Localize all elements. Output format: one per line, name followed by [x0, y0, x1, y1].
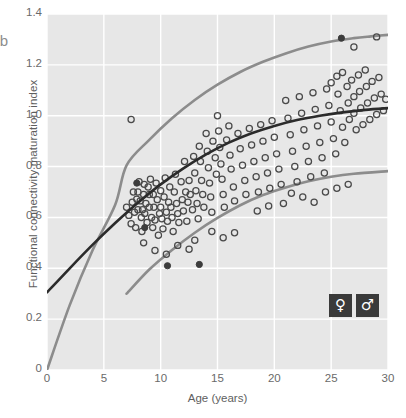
data-point — [173, 200, 179, 206]
data-point — [363, 83, 369, 89]
data-point — [141, 240, 147, 246]
data-point — [206, 180, 212, 186]
data-point — [243, 191, 249, 197]
data-point — [346, 116, 352, 122]
x-tick-label: 30 — [368, 372, 406, 384]
data-point — [254, 208, 260, 214]
data-point — [339, 69, 345, 75]
data-point — [230, 184, 236, 190]
data-point — [262, 155, 268, 161]
y-axis-label: Functional connectivity maturation index — [27, 34, 39, 334]
data-point — [143, 200, 149, 206]
data-point — [195, 216, 201, 222]
data-point — [193, 188, 199, 194]
data-point-highlighted — [164, 263, 170, 269]
x-tick-label: 20 — [254, 372, 294, 384]
data-point — [178, 179, 184, 185]
data-point — [356, 88, 362, 94]
data-point — [170, 228, 176, 234]
data-point — [209, 209, 215, 215]
legend-item-female[interactable]: ♀ — [329, 294, 352, 317]
data-point — [147, 176, 153, 182]
data-point-highlighted — [134, 180, 140, 186]
data-point — [231, 230, 237, 236]
data-point — [296, 94, 302, 100]
data-point — [278, 181, 284, 187]
data-point — [260, 138, 266, 144]
data-point — [353, 127, 359, 133]
data-point — [221, 204, 227, 210]
data-point — [237, 146, 243, 152]
data-point — [128, 116, 134, 122]
data-point — [176, 219, 182, 225]
data-point — [351, 44, 357, 50]
data-point — [335, 91, 341, 97]
data-point — [342, 139, 348, 145]
data-point — [185, 199, 191, 205]
data-point — [200, 191, 206, 197]
data-point — [150, 225, 156, 231]
data-point — [312, 106, 318, 112]
data-point — [364, 100, 370, 106]
data-point — [220, 235, 226, 241]
data-point — [191, 153, 197, 159]
data-point — [163, 209, 169, 215]
y-tick-label: 1.4 — [2, 6, 42, 18]
data-point — [264, 170, 270, 176]
data-point — [371, 95, 377, 101]
x-axis-label: Age (years) — [47, 392, 388, 404]
data-point — [239, 162, 245, 168]
data-point — [154, 197, 160, 203]
data-point — [378, 91, 384, 97]
data-point — [242, 177, 248, 183]
data-point — [333, 151, 339, 157]
data-point — [205, 165, 211, 171]
male-symbol-icon: ♂ — [361, 298, 374, 313]
data-point — [344, 83, 350, 89]
data-point — [258, 122, 264, 128]
data-point — [351, 94, 357, 100]
data-point — [345, 181, 351, 187]
data-point — [310, 90, 316, 96]
data-point — [369, 78, 375, 84]
data-point — [210, 138, 216, 144]
data-point — [376, 74, 382, 80]
data-point — [184, 218, 190, 224]
data-point — [249, 142, 255, 148]
x-tick-label: 0 — [27, 372, 67, 384]
data-point — [300, 194, 306, 200]
data-point — [192, 237, 198, 243]
data-point — [266, 203, 272, 209]
data-point — [324, 86, 330, 92]
data-point — [321, 170, 327, 176]
data-point — [251, 158, 257, 164]
data-point — [334, 73, 340, 79]
data-point — [167, 184, 173, 190]
data-point — [216, 128, 222, 134]
data-point — [186, 246, 192, 252]
data-point — [220, 191, 226, 197]
scatter-points — [123, 34, 388, 258]
data-point-highlighted — [142, 225, 148, 231]
data-point — [226, 123, 232, 129]
data-point — [322, 189, 328, 195]
x-tick-label: 5 — [84, 372, 124, 384]
data-point — [189, 207, 195, 213]
data-point — [181, 158, 187, 164]
data-point-highlighted — [338, 35, 344, 41]
data-point — [305, 158, 311, 164]
data-point — [367, 116, 373, 122]
data-point — [362, 67, 368, 73]
data-point — [209, 228, 215, 234]
data-point — [208, 194, 214, 200]
legend-item-male[interactable]: ♂ — [356, 294, 379, 317]
data-point — [301, 127, 307, 133]
x-tick-label: 15 — [198, 372, 238, 384]
data-point — [317, 139, 323, 145]
data-point — [227, 152, 233, 158]
data-point — [186, 177, 192, 183]
data-point — [152, 247, 158, 253]
data-point — [311, 199, 317, 205]
data-point — [383, 96, 388, 102]
data-point — [180, 208, 186, 214]
